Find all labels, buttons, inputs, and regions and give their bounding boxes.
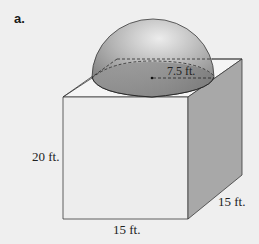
radius-label: 7.5 ft.	[167, 64, 195, 79]
width-label: 15 ft.	[113, 222, 140, 238]
figure: a. 7.5 ft. 20 ft. 15 ft. 15 ft.	[0, 0, 259, 244]
part-label: a.	[14, 11, 25, 26]
depth-label: 15 ft.	[218, 194, 245, 210]
height-label: 20 ft.	[32, 149, 59, 165]
front-face	[63, 97, 188, 219]
center-point	[151, 77, 154, 80]
